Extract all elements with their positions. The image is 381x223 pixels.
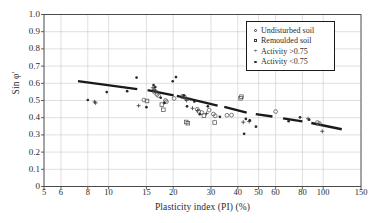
data-point-activity-low	[193, 100, 196, 103]
data-point-activity-low	[308, 118, 311, 121]
data-point-activity-low	[126, 90, 129, 93]
legend-item: +Activity >0.75	[251, 46, 329, 57]
data-point-activity-low	[175, 76, 178, 79]
y-tick-label: 0.2	[14, 148, 40, 157]
x-tick-label: 20	[169, 188, 178, 197]
legend-item-label: Undisturbed soil	[260, 26, 314, 35]
data-point-activity-low	[219, 115, 222, 118]
data-point-activity-low	[198, 113, 201, 116]
data-point-activity-low	[171, 80, 174, 83]
x-tick-label: 15	[142, 188, 151, 197]
data-point-activity-low	[163, 102, 166, 105]
y-tick-label: 0.4	[14, 113, 40, 122]
data-point-activity-low	[182, 94, 185, 97]
plus-icon: +	[251, 47, 260, 56]
x-axis-title: Plasticity index (PI) (%)	[44, 202, 361, 212]
data-point-activity-low	[189, 98, 192, 101]
open-square-icon	[251, 36, 260, 45]
data-point-activity-low	[105, 91, 108, 94]
data-point-activity-low	[299, 116, 302, 119]
data-point-activity-low	[152, 84, 155, 87]
y-tick-label: 0	[14, 182, 40, 191]
legend-item-label: Activity >0.75	[260, 47, 308, 56]
open-circle-icon	[251, 26, 260, 35]
data-point-activity-low	[186, 105, 189, 108]
y-tick-label: 0.3	[14, 130, 40, 139]
x-tick-label: 100	[317, 188, 330, 197]
data-point-activity-low	[159, 96, 162, 99]
chart-figure: 00.10.20.30.40.50.60.70.80.91.0 56810152…	[0, 0, 381, 223]
data-point-activity-low	[86, 99, 89, 102]
y-tick-label: 0.9	[14, 27, 40, 36]
x-tick-label: 6	[59, 188, 63, 197]
chart-legend: Undisturbed soilRemoulded soil+Activity …	[246, 21, 335, 71]
legend-item-label: Remoulded soil	[260, 36, 311, 45]
data-point-activity-low	[135, 76, 138, 79]
x-tick-label: 10	[104, 188, 113, 197]
filled-dot-icon	[251, 57, 260, 66]
data-point-activity-low	[243, 133, 246, 136]
data-point-activity-low	[287, 120, 290, 123]
data-point-activity-low	[244, 118, 247, 121]
legend-item-label: Activity <0.75	[260, 57, 308, 66]
data-point-activity-low	[248, 119, 251, 122]
x-tick-label: 8	[86, 188, 90, 197]
x-tick-label: 60	[271, 188, 280, 197]
legend-item: Activity <0.75	[251, 57, 329, 68]
data-point-activity-low	[145, 106, 148, 109]
y-tick-label: 1.0	[14, 10, 40, 19]
x-tick-label: 50	[254, 188, 263, 197]
legend-item: Remoulded soil	[251, 36, 329, 47]
data-point-activity-low	[255, 125, 258, 128]
x-tick-label: 80	[298, 188, 307, 197]
data-point-activity-low	[154, 86, 157, 89]
legend-item: Undisturbed soil	[251, 25, 329, 36]
x-tick-label: 5	[42, 188, 46, 197]
y-tick-label: 0.1	[14, 165, 40, 174]
x-tick-label: 150	[355, 188, 368, 197]
y-axis-title: Sin φ'	[11, 53, 21, 113]
x-tick-label: 30	[207, 188, 216, 197]
x-tick-label: 40	[234, 188, 243, 197]
data-point-activity-low	[206, 105, 209, 108]
